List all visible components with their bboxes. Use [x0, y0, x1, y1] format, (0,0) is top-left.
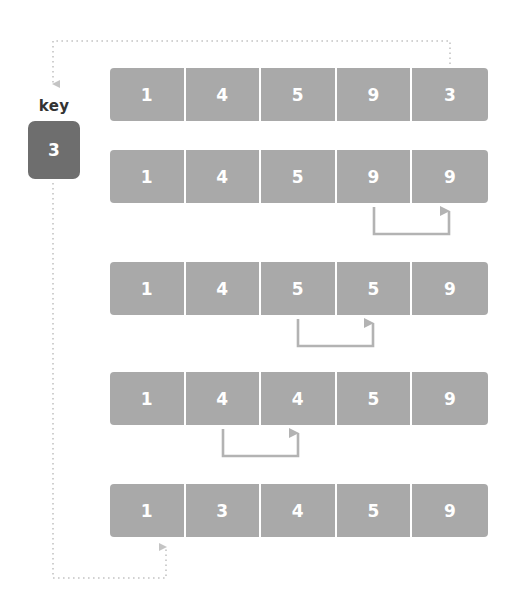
array-cell: 4	[186, 150, 262, 203]
array-cell: 5	[337, 372, 413, 425]
array-row-3: 1 4 5 5 9	[110, 262, 488, 315]
array-cell: 5	[261, 150, 337, 203]
array-cell: 9	[412, 372, 488, 425]
key-label: key	[28, 97, 80, 115]
array-cell: 5	[261, 68, 337, 121]
key-value-box: 3	[28, 121, 80, 179]
shift-arrow-row-4	[223, 429, 298, 456]
array-row-4: 1 4 4 5 9	[110, 372, 488, 425]
shift-arrow-row-3	[298, 319, 373, 346]
array-cell: 5	[337, 262, 413, 315]
array-cell: 4	[261, 372, 337, 425]
insertion-sort-diagram: key 3 1 4 5 9 3 1 4 5 9 9 1 4 5 5 9 1 4 …	[0, 0, 514, 597]
array-cell: 5	[261, 262, 337, 315]
array-cell: 3	[186, 484, 262, 537]
array-row-2: 1 4 5 9 9	[110, 150, 488, 203]
array-cell: 4	[186, 262, 262, 315]
array-cell: 9	[412, 484, 488, 537]
array-row-5: 1 3 4 5 9	[110, 484, 488, 537]
array-cell: 1	[110, 150, 186, 203]
array-cell: 1	[110, 262, 186, 315]
array-cell: 9	[412, 150, 488, 203]
array-cell: 9	[337, 68, 413, 121]
array-row-1: 1 4 5 9 3	[110, 68, 488, 121]
shift-arrow-row-2	[374, 207, 449, 234]
array-cell: 9	[337, 150, 413, 203]
array-cell: 4	[186, 68, 262, 121]
array-cell: 5	[337, 484, 413, 537]
array-cell: 1	[110, 68, 186, 121]
array-cell: 1	[110, 372, 186, 425]
array-cell: 1	[110, 484, 186, 537]
array-cell: 4	[261, 484, 337, 537]
array-cell: 9	[412, 262, 488, 315]
array-cell: 3	[412, 68, 488, 121]
array-cell: 4	[186, 372, 262, 425]
